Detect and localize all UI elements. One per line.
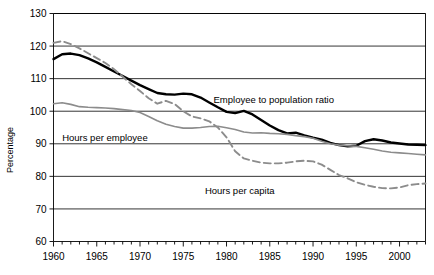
x-tick-label-1965: 1965: [86, 251, 109, 262]
y-tick-label-130: 130: [30, 8, 47, 19]
employee-to-population-ratio-label: Employee to population ratio: [214, 94, 334, 105]
y-tick-label-100: 100: [30, 106, 47, 117]
hours-per-employee-label: Hours per employee: [62, 132, 148, 143]
x-tick-label-1960: 1960: [42, 251, 65, 262]
x-tick-label-1970: 1970: [129, 251, 152, 262]
y-tick-label-120: 120: [30, 41, 47, 52]
y-tick-label-110: 110: [31, 73, 47, 84]
x-tick-label-1995: 1995: [345, 251, 368, 262]
x-tick-label-1975: 1975: [172, 251, 195, 262]
x-tick-label-2000: 2000: [388, 251, 411, 262]
y-tick-label-80: 80: [35, 171, 47, 182]
x-tick-label-1985: 1985: [259, 251, 282, 262]
y-tick-label-60: 60: [35, 236, 47, 247]
x-tick-label-1990: 1990: [302, 251, 325, 262]
y-axis-title: Percentage: [5, 127, 15, 173]
chart-container: 13012011010090807060 1960196519701975198…: [0, 0, 434, 275]
y-tick-label-90: 90: [35, 138, 47, 149]
y-tick-label-70: 70: [35, 204, 47, 215]
line-chart: 13012011010090807060 1960196519701975198…: [0, 0, 434, 275]
x-tick-label-1980: 1980: [215, 251, 238, 262]
hours-per-capita-label: Hours per capita: [205, 185, 275, 196]
